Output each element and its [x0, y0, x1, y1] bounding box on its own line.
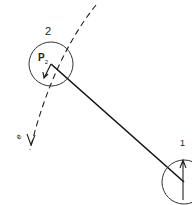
dashed-trajectory	[30, 5, 96, 150]
node-1-label: 1	[180, 139, 185, 148]
diagram-canvas	[0, 0, 192, 205]
connecting-rod	[51, 64, 184, 182]
velocity-arrow-2-icon	[43, 64, 51, 78]
point-p2-label: P2	[38, 53, 48, 65]
point-p-subscript: 2	[45, 59, 48, 65]
node-2-label: 2	[45, 26, 51, 37]
point-p-main: P	[38, 52, 45, 63]
